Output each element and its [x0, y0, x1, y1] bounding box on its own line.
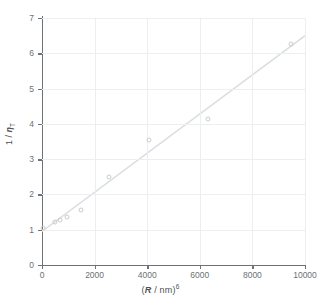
y-axis-tick — [38, 18, 42, 19]
trend-line — [42, 18, 305, 265]
data-point — [64, 215, 69, 220]
y-axis-label: 1 / ηT — [4, 102, 16, 166]
x-axis-tick-label: 2000 — [85, 270, 104, 280]
x-axis-label: (R / nm)6 — [0, 283, 321, 295]
data-point — [53, 219, 58, 224]
gridline-horizontal — [42, 89, 305, 90]
y-axis-tick — [38, 89, 42, 90]
gridline-horizontal — [42, 124, 305, 125]
gridline-horizontal — [42, 230, 305, 231]
y-axis-tick-label: 7 — [20, 13, 34, 23]
y-axis-tick — [38, 159, 42, 160]
x-axis-tick-label: 4000 — [138, 270, 157, 280]
gridline-horizontal — [42, 194, 305, 195]
x-axis-label-exponent: 6 — [176, 283, 180, 290]
gridline-vertical — [200, 18, 201, 265]
x-axis-line — [42, 265, 306, 266]
x-axis-tick — [95, 265, 96, 269]
y-axis-tick — [38, 124, 42, 125]
y-axis-tick-label: 1 — [20, 225, 34, 235]
x-axis-label-middle: / nm) — [151, 285, 175, 295]
gridline-vertical — [95, 18, 96, 265]
y-axis-tick-label: 5 — [20, 84, 34, 94]
data-point — [288, 42, 293, 47]
data-point — [205, 116, 210, 121]
y-axis-label-subscript: T — [9, 123, 16, 127]
gridline-horizontal — [42, 53, 305, 54]
x-axis-tick-label: 6000 — [190, 270, 209, 280]
x-axis-tick-label: 8000 — [243, 270, 262, 280]
plot-area — [42, 18, 305, 265]
y-axis-tick-label: 0 — [20, 260, 34, 270]
x-axis-tick — [147, 265, 148, 269]
y-axis-tick-label: 4 — [20, 119, 34, 129]
gridline-vertical — [305, 18, 306, 265]
gridline-vertical — [252, 18, 253, 265]
y-axis-tick — [38, 230, 42, 231]
x-axis-tick — [200, 265, 201, 269]
y-axis-tick-label: 3 — [20, 154, 34, 164]
x-axis-tick — [305, 265, 306, 269]
x-axis-tick — [42, 265, 43, 269]
y-axis-tick-label: 6 — [20, 48, 34, 58]
y-axis-tick-label: 2 — [20, 189, 34, 199]
x-axis-tick-label: 0 — [40, 270, 45, 280]
gridline-horizontal — [42, 18, 305, 19]
x-axis-tick — [252, 265, 253, 269]
data-point — [58, 217, 63, 222]
chart-container: (R / nm)6 1 / ηT 02000400060008000100000… — [0, 0, 321, 303]
y-axis-tick — [38, 265, 42, 266]
gridline-horizontal — [42, 159, 305, 160]
y-axis-tick — [38, 194, 42, 195]
y-axis-label-prefix: 1 / — [4, 132, 14, 145]
data-point — [107, 174, 112, 179]
y-axis-tick — [38, 53, 42, 54]
data-point — [146, 137, 151, 142]
x-axis-tick-label: 10000 — [293, 270, 317, 280]
data-point — [79, 208, 84, 213]
y-axis-label-variable: η — [4, 127, 14, 133]
